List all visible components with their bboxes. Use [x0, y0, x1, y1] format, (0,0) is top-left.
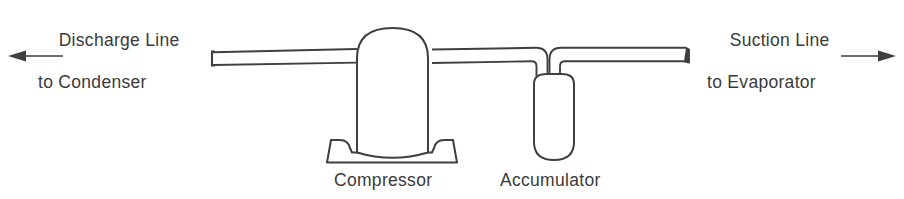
discharge-pipe [212, 49, 357, 66]
compressor-body [357, 28, 428, 158]
suction-pipe [432, 48, 689, 76]
discharge-line-label-line2: to Condenser [38, 72, 180, 93]
suction-line-label: Suction Line to Evaporator [709, 9, 830, 135]
right-arrow-icon [841, 51, 896, 62]
suction-line-label-line1: Suction Line [730, 30, 830, 50]
discharge-line-label: Discharge Line to Condenser [38, 9, 180, 135]
accumulator-body [534, 74, 574, 160]
refrigeration-piping-diagram: Discharge Line to Condenser Suction Line… [0, 0, 904, 199]
discharge-line-label-line1: Discharge Line [59, 30, 180, 50]
accumulator-label: Accumulator [500, 170, 601, 191]
compressor-label: Compressor [334, 170, 432, 191]
suction-line-label-line2: to Evaporator [707, 72, 830, 93]
